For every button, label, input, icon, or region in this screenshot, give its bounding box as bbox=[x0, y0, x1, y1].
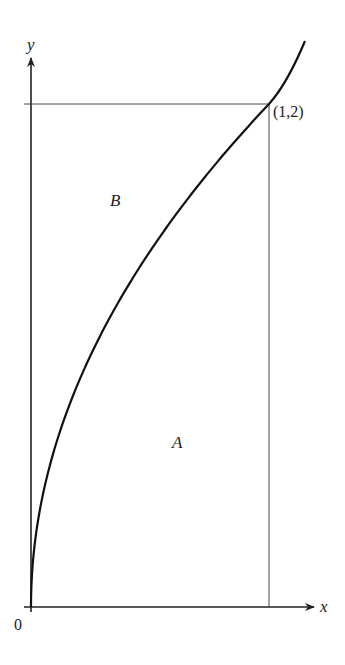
curve bbox=[31, 41, 305, 607]
origin-label: 0 bbox=[14, 616, 22, 633]
y-axis-label: y bbox=[25, 35, 35, 54]
x-axis-label: x bbox=[319, 597, 328, 616]
region-label-b: B bbox=[110, 191, 121, 210]
diagram: y x 0 (1,2) B A bbox=[0, 0, 345, 665]
point-label: (1,2) bbox=[273, 103, 304, 121]
region-label-a: A bbox=[171, 433, 183, 452]
